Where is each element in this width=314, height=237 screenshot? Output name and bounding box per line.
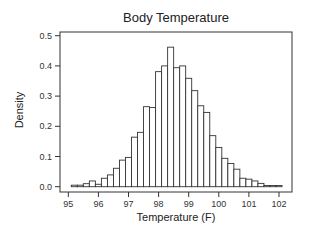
histogram-bar xyxy=(228,163,234,186)
histogram-bar xyxy=(240,178,246,186)
y-tick-label: 0.1 xyxy=(39,152,52,162)
histogram-bar xyxy=(101,178,107,186)
x-tick-label: 102 xyxy=(271,199,286,209)
histogram-bar xyxy=(144,107,150,187)
histogram-bar xyxy=(234,169,240,187)
histogram-bar xyxy=(174,68,180,187)
histogram-bar xyxy=(210,136,216,187)
histogram-bar xyxy=(162,66,168,187)
histogram-bar xyxy=(132,137,138,187)
histogram-bar xyxy=(113,168,119,186)
chart-title: Body Temperature xyxy=(123,10,229,25)
histogram-bar xyxy=(83,184,89,187)
histogram-chart: Body Temperature 0.00.10.20.30.40.5 9596… xyxy=(0,0,314,237)
x-tick-label: 100 xyxy=(211,199,226,209)
histogram-bar xyxy=(77,185,83,187)
x-axis-label: Temperature (F) xyxy=(137,211,216,223)
x-tick-label: 98 xyxy=(154,199,164,209)
histogram-bar xyxy=(168,47,174,187)
histogram-bar xyxy=(125,157,131,186)
y-tick-label: 0.0 xyxy=(39,182,52,192)
histogram-bar xyxy=(198,106,204,187)
y-tick-label: 0.5 xyxy=(39,31,52,41)
histogram-bar xyxy=(95,184,101,186)
y-tick-label: 0.2 xyxy=(39,121,52,131)
x-tick-label: 95 xyxy=(63,199,73,209)
histogram-bar xyxy=(270,185,276,186)
y-axis-label: Density xyxy=(13,91,25,128)
histogram-bar xyxy=(107,175,113,187)
histogram-bar xyxy=(246,179,252,187)
histogram-bar xyxy=(192,91,198,187)
histogram-bar xyxy=(89,181,95,187)
histogram-bar xyxy=(150,108,156,187)
histogram-bar xyxy=(71,185,77,187)
x-tick-label: 101 xyxy=(241,199,256,209)
x-tick-label: 97 xyxy=(123,199,133,209)
histogram-bar xyxy=(216,147,222,186)
histogram-bar xyxy=(180,66,186,187)
histogram-bar xyxy=(119,160,125,187)
histogram-bar xyxy=(258,183,264,186)
histogram-bar xyxy=(264,185,270,186)
histogram-bar xyxy=(204,112,210,186)
y-axis: 0.00.10.20.30.40.5 xyxy=(39,31,60,192)
y-tick-label: 0.4 xyxy=(39,61,52,71)
x-tick-label: 99 xyxy=(184,199,194,209)
histogram-bar xyxy=(138,132,144,186)
y-tick-label: 0.3 xyxy=(39,91,52,101)
histogram-bars xyxy=(71,47,282,187)
histogram-bar xyxy=(276,185,282,186)
x-axis: 9596979899100101102 xyxy=(63,192,286,209)
histogram-bar xyxy=(156,72,162,187)
histogram-bar xyxy=(186,78,192,186)
histogram-bar xyxy=(222,158,228,186)
histogram-bar xyxy=(252,181,258,187)
x-tick-label: 96 xyxy=(93,199,103,209)
